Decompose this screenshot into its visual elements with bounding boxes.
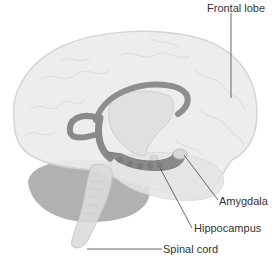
label-amygdala: Amygdala [219,196,268,207]
label-hippocampus: Hippocampus [194,223,261,234]
label-frontal-lobe: Frontal lobe [207,3,265,14]
amygdala [173,149,187,159]
label-spinal-cord: Spinal cord [163,244,218,255]
brain-diagram [0,0,277,259]
